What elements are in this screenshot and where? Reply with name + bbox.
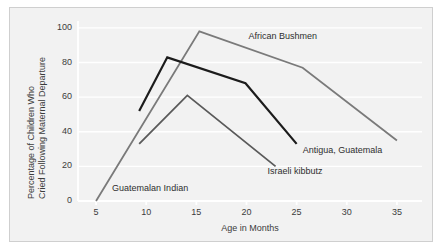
x-tick-label-5: 5 <box>76 207 116 217</box>
series-label-1: Antigua, Guatemala <box>303 145 383 155</box>
x-tick-label-25: 25 <box>277 207 317 217</box>
y-axis-title-line-1: Percentage of Children Who <box>26 57 37 199</box>
x-tick-label-20: 20 <box>226 207 266 217</box>
x-tick-label-15: 15 <box>176 207 216 217</box>
series-label-0: African Bushmen <box>248 31 317 41</box>
series-line-1 <box>139 57 296 144</box>
x-tick-label-35: 35 <box>377 207 417 217</box>
x-axis-title: Age in Months <box>78 223 422 233</box>
y-axis-title: Percentage of Children Who Cried Followi… <box>26 57 48 199</box>
series-label-3: Guatemalan Indian <box>112 183 188 193</box>
plot-area <box>10 8 434 243</box>
y-tick-label-100: 100 <box>38 22 72 32</box>
series-line-2 <box>139 95 275 166</box>
series-lines-group <box>96 31 397 201</box>
x-tick-label-10: 10 <box>126 207 166 217</box>
chart-panel: 020406080100 5101520253035 Percentage of… <box>9 7 433 242</box>
figure-canvas: 020406080100 5101520253035 Percentage of… <box>0 0 443 251</box>
x-tick-label-30: 30 <box>327 207 367 217</box>
series-label-2: Israeli kibbutz <box>268 166 323 176</box>
series-line-0 <box>96 31 397 201</box>
y-axis-title-line-2: Cried Following Maternal Departure <box>37 57 48 199</box>
